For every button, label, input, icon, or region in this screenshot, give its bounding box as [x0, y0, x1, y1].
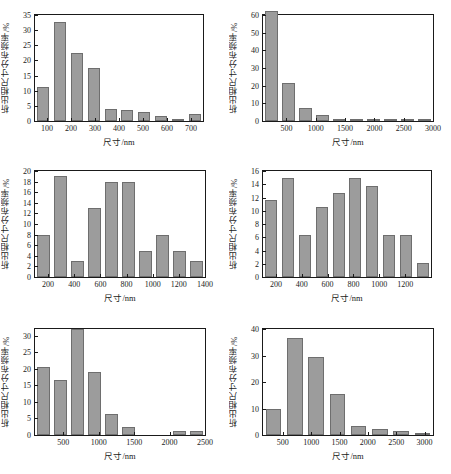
- histogram-bar: [287, 338, 302, 435]
- histogram-bar: [190, 261, 202, 277]
- y-axis-tick-label: 12: [240, 193, 259, 202]
- bar-cell: [381, 171, 398, 277]
- y-axis-tick-mark: [35, 76, 38, 77]
- y-axis-tick-mark: [35, 418, 38, 419]
- x-axis-tick-label: 600: [94, 280, 106, 289]
- bar-cell: [52, 15, 69, 121]
- x-axis-tick-mark: [205, 432, 206, 435]
- y-axis-tick-mark: [263, 103, 266, 104]
- histogram-bar: [121, 110, 133, 122]
- y-axis-tick-label: 4: [12, 251, 31, 260]
- y-axis-tick-label: 10: [12, 86, 31, 95]
- bar-cell: [347, 171, 364, 277]
- x-axis-tick-label: 200: [42, 280, 54, 289]
- histogram-bar: [173, 431, 185, 435]
- plot-area-b: [262, 14, 434, 122]
- y-axis-tick-label: 35: [12, 11, 31, 20]
- y-axis-tick-mark: [263, 409, 266, 410]
- y-axis-label: 析出相尺寸分布频率/%: [0, 172, 12, 276]
- x-axis-tick-label: 1500: [332, 438, 348, 447]
- bar-cell: [364, 171, 381, 277]
- y-axis-tick-label: 0: [240, 273, 259, 282]
- y-axis-tick-mark: [35, 402, 38, 403]
- bar-cell: [86, 329, 103, 435]
- bar-cell: [327, 329, 348, 435]
- x-axis-tick-label: 200: [65, 124, 77, 133]
- x-axis-tick-label: 1200: [171, 280, 187, 289]
- x-axis-tick-mark: [191, 118, 192, 121]
- histogram-bar: [105, 182, 117, 277]
- y-axis-tick-label: 40: [240, 325, 259, 334]
- x-axis-tick-mark: [396, 432, 397, 435]
- histogram-bar: [172, 119, 184, 121]
- x-axis-tick-label: 2500: [396, 124, 412, 133]
- bar-cell: [69, 329, 86, 435]
- x-axis-tick-mark: [405, 274, 406, 277]
- y-axis-tick-mark: [35, 192, 38, 193]
- histogram-bar: [122, 182, 134, 277]
- y-axis-tick-mark: [263, 171, 266, 172]
- bar-cell: [263, 329, 284, 435]
- y-axis-tick-label: 10: [240, 206, 259, 215]
- x-axis-tick-label: 600: [322, 280, 334, 289]
- y-axis-tick-mark: [263, 33, 266, 34]
- figure-panel-grid: (a)05101520253035100200300400500600700尺寸…: [0, 0, 451, 474]
- y-axis-tick-label: 20: [12, 364, 31, 373]
- y-axis-tick-mark: [35, 91, 38, 92]
- y-axis-tick-mark: [263, 211, 266, 212]
- y-axis-tick-label: 0: [12, 431, 31, 440]
- x-axis-label: 尺寸/nm: [34, 135, 204, 147]
- y-axis-tick-mark: [263, 435, 266, 436]
- x-axis-tick-mark: [433, 118, 434, 121]
- y-axis-tick-mark: [35, 385, 38, 386]
- y-axis-tick-mark: [263, 121, 266, 122]
- x-axis-label: 尺寸/nm: [34, 291, 206, 303]
- x-axis-tick-label: 1200: [397, 280, 413, 289]
- y-axis-tick-label: 10: [12, 397, 31, 406]
- bar-series: [35, 15, 203, 121]
- y-axis-tick-mark: [263, 198, 266, 199]
- x-axis-tick-mark: [119, 118, 120, 121]
- histogram-bar: [37, 367, 49, 435]
- x-axis-tick-label: 1000: [303, 438, 319, 447]
- x-axis-tick-label: 2500: [197, 438, 213, 447]
- x-axis-tick-mark: [379, 274, 380, 277]
- y-axis-tick-mark: [35, 182, 38, 183]
- chart-panel-d: (d)024681012141620040060080010001200尺寸/n…: [226, 158, 451, 314]
- histogram-bar: [330, 394, 345, 435]
- y-axis-tick-label: 10: [12, 220, 31, 229]
- y-axis-tick-mark: [263, 68, 266, 69]
- y-axis-tick-mark: [35, 435, 38, 436]
- chart-panel-a: (a)05101520253035100200300400500600700尺寸…: [0, 0, 226, 158]
- y-axis-tick-label: 18: [12, 177, 31, 186]
- histogram-bar: [299, 108, 311, 121]
- y-axis-tick-label: 0: [12, 273, 31, 282]
- chart-panel-b: (b)010203040506050010001500200025003000尺…: [226, 0, 451, 158]
- bar-cell: [412, 329, 433, 435]
- histogram-bar: [37, 87, 49, 121]
- x-axis-tick-mark: [276, 274, 277, 277]
- x-axis-tick-label: 500: [280, 124, 292, 133]
- plot-area-e: [34, 328, 206, 436]
- y-axis-tick-label: 30: [240, 64, 259, 73]
- y-axis-tick-label: 0: [240, 431, 259, 440]
- x-axis-tick-label: 3000: [425, 124, 441, 133]
- y-axis-tick-label: 0: [240, 117, 259, 126]
- histogram-bar: [415, 433, 430, 435]
- x-axis-tick-mark: [328, 274, 329, 277]
- x-axis-tick-mark: [374, 118, 375, 121]
- x-axis-tick-mark: [205, 274, 206, 277]
- x-axis-tick-mark: [99, 432, 100, 435]
- x-axis-tick-mark: [71, 118, 72, 121]
- histogram-bar: [54, 380, 66, 435]
- y-axis-tick-label: 40: [240, 46, 259, 55]
- histogram-bar: [105, 109, 117, 121]
- bar-series: [263, 171, 431, 277]
- histogram-bar: [282, 178, 294, 277]
- y-axis-tick-mark: [263, 277, 266, 278]
- histogram-bar: [71, 53, 83, 121]
- histogram-bar: [105, 414, 117, 435]
- histogram-bar: [384, 119, 396, 121]
- x-axis-tick-mark: [143, 118, 144, 121]
- y-axis-tick-label: 5: [12, 101, 31, 110]
